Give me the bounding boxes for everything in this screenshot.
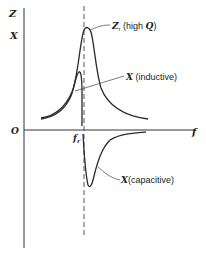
inductive-label: X (inductive) [125,72,177,82]
capacitive-leader [98,167,120,180]
capacitive-label-rest: (capacitive) [128,175,174,185]
resonance-subscript: r [77,137,81,144]
impedance-leader [90,25,110,30]
origin-label: O [11,126,19,136]
impedance-label-q: Q [146,21,154,31]
y-axis-label: Z [8,8,17,19]
inductive-label-rest: (inductive) [133,72,177,82]
capacitive-label: X(capacitive) [120,175,174,185]
impedance-label: Zr (high Q) [111,21,156,32]
resonance-frequency-label: fr [72,133,81,144]
impedance-label-end: ) [153,21,156,31]
y-tick-label: X [9,30,19,41]
impedance-label-rest: (high [121,21,146,31]
inductive-curve [41,72,82,126]
resonance-diagram: Z X O f fr Zr (high Q) X (inductive) X(c… [0,0,206,256]
x-axis-label: f [191,126,198,137]
